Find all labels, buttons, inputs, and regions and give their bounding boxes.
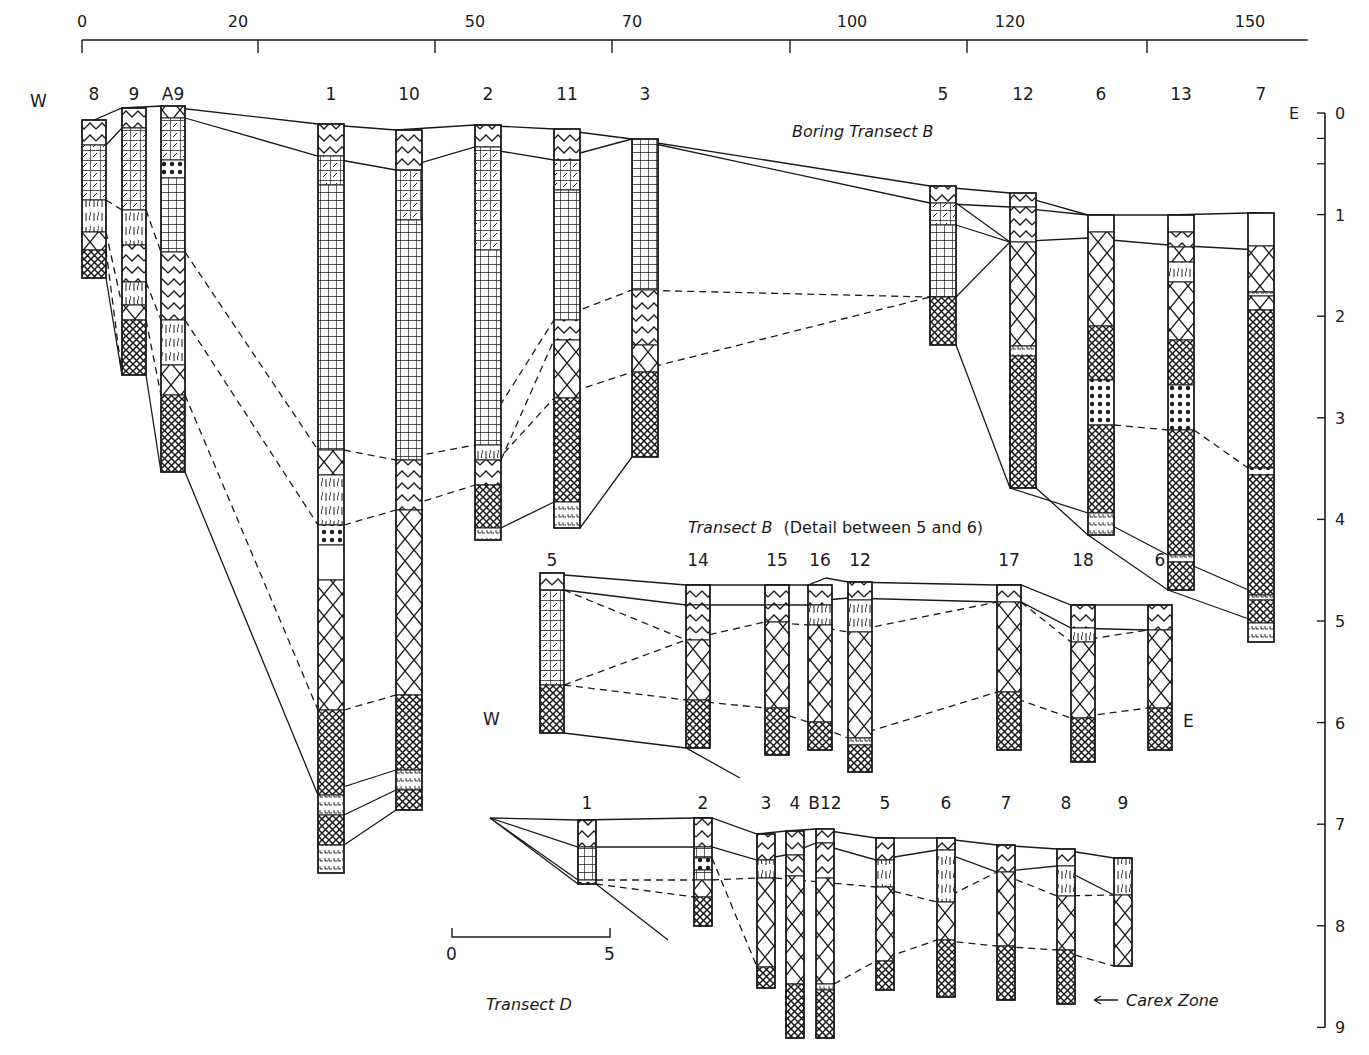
layer-grid <box>578 847 596 880</box>
layer-sand <box>1248 292 1274 296</box>
layer-dots <box>1088 380 1114 425</box>
depth-label: 9 <box>1335 1018 1345 1037</box>
layer-dots <box>318 525 344 545</box>
depth-label: 4 <box>1335 510 1345 529</box>
layer-diamond <box>554 340 580 398</box>
layer-wave <box>765 605 789 622</box>
layer-sand <box>1088 513 1114 535</box>
core-id-label: 14 <box>687 550 709 570</box>
layer-fine-cross <box>786 984 804 1038</box>
layer-diamond <box>997 872 1015 946</box>
layer-grid <box>161 178 185 252</box>
layer-wave <box>816 843 834 878</box>
core-B-3 <box>632 139 658 457</box>
layer-fine-cross <box>686 700 710 748</box>
layer-reed <box>122 210 146 245</box>
arrow-left-icon <box>1094 996 1118 1004</box>
layer-wave <box>475 460 501 485</box>
layer-fine-cross <box>848 745 872 772</box>
core-id-label: 10 <box>398 84 420 104</box>
layer-wave <box>396 460 422 510</box>
layer-grid <box>694 847 712 858</box>
core-id-label: 3 <box>640 84 651 104</box>
layer-fine-cross <box>475 485 501 528</box>
layer-wave <box>937 838 955 850</box>
layer-grid-slash <box>396 170 422 220</box>
core-D-1 <box>578 820 596 884</box>
core-D-4 <box>786 831 804 1038</box>
layer-wave <box>1148 605 1172 630</box>
layer-sand <box>1248 595 1274 600</box>
core-B-8 <box>82 120 106 278</box>
layer-wave <box>1071 605 1095 628</box>
layer-diamond <box>816 878 834 984</box>
layer-fine-cross <box>1168 340 1194 385</box>
layer-diamond <box>1168 247 1194 262</box>
layer-wave <box>82 120 106 145</box>
layer-fine-cross <box>1088 425 1114 513</box>
core-BD-18 <box>1071 605 1095 762</box>
carex-zone-annotation: Carex Zone <box>1094 991 1219 1010</box>
layer-reed <box>848 600 872 632</box>
layer-wave <box>1010 207 1036 242</box>
layer-sand <box>1248 623 1274 642</box>
layer-wave <box>757 834 775 860</box>
layer-grid-slash <box>554 160 580 190</box>
layer-diamond <box>318 450 344 475</box>
top-scale-label: 0 <box>77 12 87 31</box>
core-BD-14 <box>686 585 710 748</box>
layer-dots <box>694 858 712 870</box>
core-D-B12 <box>816 829 834 1038</box>
core-id-label: 1 <box>582 793 593 813</box>
top-scale-label: 100 <box>837 12 868 31</box>
layer-reed <box>1057 866 1075 896</box>
layer-fine-cross <box>694 897 712 926</box>
dashed-correlation-lines <box>106 200 1248 984</box>
core-id-label: 9 <box>129 84 140 104</box>
layer-diamond <box>1248 296 1274 310</box>
layer-diamond <box>161 365 185 395</box>
layer-reed <box>1071 628 1095 642</box>
scale-bar-label-5: 5 <box>604 944 615 964</box>
core-B-5 <box>930 186 956 345</box>
core-B-1 <box>318 124 344 873</box>
layer-wave <box>1168 232 1194 247</box>
core-id-label: 5 <box>938 84 949 104</box>
core-id-label: 7 <box>1256 84 1267 104</box>
layer-diamond <box>686 640 710 700</box>
core-B-13 <box>1168 215 1194 590</box>
layer-wave <box>318 124 344 156</box>
layer-fine-cross <box>82 250 106 278</box>
layer-diamond <box>694 880 712 897</box>
core-id-label: 1 <box>326 84 337 104</box>
boring-cores <box>82 106 1274 1038</box>
layer-reed <box>937 850 955 902</box>
layer-blank <box>1248 213 1274 246</box>
layer-wave <box>475 125 501 147</box>
title-italic-part: Transect B <box>688 518 772 537</box>
layer-reed <box>318 475 344 525</box>
core-id-label: 17 <box>998 550 1020 570</box>
core-id-label: B12 <box>808 793 841 813</box>
layer-fine-cross <box>937 940 955 997</box>
layer-grid <box>632 139 658 290</box>
layer-grid <box>396 220 422 460</box>
core-BD-12 <box>848 582 872 772</box>
core-id-label: 7 <box>1001 793 1012 813</box>
layer-reed <box>82 200 106 232</box>
core-id-label: 18 <box>1072 550 1094 570</box>
core-D-8 <box>1057 849 1075 1004</box>
layer-fine-cross <box>876 961 894 990</box>
layer-diamond <box>396 510 422 695</box>
core-id-label: 6 <box>1096 84 1107 104</box>
depth-scale-right: 0123456789E <box>1289 104 1345 1037</box>
layer-wave <box>1010 193 1036 207</box>
core-D-6 <box>937 838 955 997</box>
core-D-2 <box>694 818 712 926</box>
layer-wave <box>554 129 580 160</box>
layer-diamond <box>1071 642 1095 718</box>
layer-fine-cross <box>997 946 1015 1000</box>
layer-sand <box>1010 346 1036 356</box>
core-B-11 <box>554 129 580 528</box>
layer-dots <box>1248 468 1274 475</box>
